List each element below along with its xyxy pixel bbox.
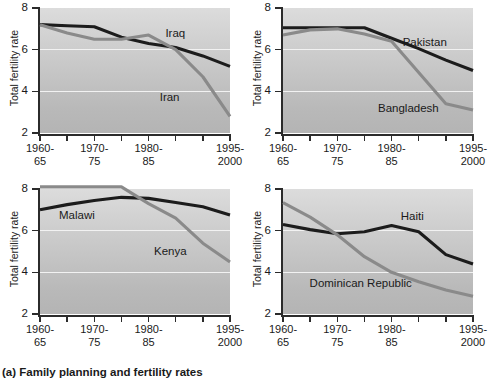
- series-line-iran: [40, 25, 230, 117]
- x-tick-mark: [391, 135, 393, 141]
- x-tick-label-line1: 1980-: [123, 142, 175, 155]
- x-tick-mark: [309, 135, 311, 141]
- x-tick-mark: [202, 316, 204, 322]
- y-tick-mark: [275, 272, 282, 274]
- x-tick-mark: [175, 135, 177, 141]
- x-tick-label-line1: 1980-: [366, 323, 418, 336]
- series-label-dominican-republic: Dominican Republic: [310, 277, 412, 289]
- y-tick-label: 4: [249, 85, 271, 97]
- x-tick-mark: [445, 135, 447, 141]
- y-tick-mark: [275, 132, 282, 134]
- chart-panel-iraq-iran: Total fertility rate8642IraqIran1960-651…: [0, 0, 242, 181]
- x-tick-mark: [282, 135, 284, 141]
- x-tick-label-line1: 1970-: [68, 142, 120, 155]
- x-tick-label-line1: 1970-: [311, 142, 363, 155]
- panel-grid: Total fertility rate8642IraqIran1960-651…: [0, 0, 485, 362]
- y-tick-label: 8: [249, 2, 271, 14]
- y-tick-mark: [275, 313, 282, 315]
- x-tick-label-line2: 75: [68, 155, 120, 168]
- y-axis-title: Total fertility rate: [251, 8, 263, 128]
- plot-area: MalawiKenya: [40, 189, 230, 314]
- y-tick-label: 8: [249, 183, 271, 195]
- x-tick-mark: [309, 316, 311, 322]
- x-tick-mark: [282, 316, 284, 322]
- x-tick-label-line2: 75: [311, 155, 363, 168]
- y-tick-label: 4: [249, 266, 271, 278]
- y-tick-label: 2: [249, 127, 271, 139]
- plot-area: PakistanBangladesh: [283, 8, 473, 133]
- x-tick-label: 1980-85: [123, 142, 175, 167]
- x-tick-label-line2: 65: [14, 336, 66, 349]
- x-tick-label-line2: 85: [366, 155, 418, 168]
- x-tick-label-line2: 85: [123, 155, 175, 168]
- x-tick-mark: [121, 316, 123, 322]
- x-tick-mark: [121, 135, 123, 141]
- x-tick-mark: [229, 135, 231, 141]
- x-tick-label-line1: 1960-: [14, 142, 66, 155]
- series-lines: [40, 189, 230, 314]
- y-tick-mark: [32, 313, 39, 315]
- x-tick-label-line2: 65: [14, 155, 66, 168]
- x-tick-mark: [445, 316, 447, 322]
- chart-panel-malawi-kenya: Total fertility rate8642MalawiKenya1960-…: [0, 181, 242, 362]
- series-line-pakistan: [283, 28, 473, 71]
- x-tick-label: 1970-75: [68, 142, 120, 167]
- y-tick-mark: [32, 91, 39, 93]
- y-tick-label: 2: [249, 308, 271, 320]
- y-tick-mark: [275, 230, 282, 232]
- x-tick-label-line2: 2000: [447, 336, 492, 349]
- y-tick-label: 6: [6, 225, 28, 237]
- x-tick-mark: [148, 135, 150, 141]
- figure-caption: (a) Family planning and fertility rates: [2, 366, 203, 378]
- y-tick-label: 6: [249, 44, 271, 56]
- plot-area: HaitiDominican Republic: [283, 189, 473, 314]
- x-tick-label: 1970-75: [311, 323, 363, 348]
- y-tick-label: 4: [6, 85, 28, 97]
- x-tick-mark: [148, 316, 150, 322]
- series-label-iran: Iran: [160, 91, 180, 103]
- series-lines: [283, 8, 473, 133]
- x-tick-label-line1: 1970-: [68, 323, 120, 336]
- series-lines: [283, 189, 473, 314]
- y-tick-mark: [275, 91, 282, 93]
- x-tick-label-line1: 1995-: [447, 323, 492, 336]
- y-tick-mark: [32, 7, 39, 9]
- y-tick-mark: [275, 188, 282, 190]
- x-tick-label: 1960-65: [14, 323, 66, 348]
- y-tick-mark: [32, 188, 39, 190]
- x-tick-label: 1960-65: [257, 323, 309, 348]
- x-tick-label-line1: 1960-: [14, 323, 66, 336]
- x-tick-mark: [418, 316, 420, 322]
- x-tick-label-line1: 1980-: [123, 323, 175, 336]
- x-tick-label-line1: 1980-: [366, 142, 418, 155]
- x-tick-mark: [94, 316, 96, 322]
- x-tick-mark: [364, 316, 366, 322]
- x-tick-mark: [175, 316, 177, 322]
- x-tick-mark: [391, 316, 393, 322]
- y-tick-mark: [275, 49, 282, 51]
- x-tick-mark: [66, 316, 68, 322]
- x-tick-label-line1: 1960-: [257, 142, 309, 155]
- x-tick-mark: [66, 135, 68, 141]
- x-tick-label: 1960-65: [257, 142, 309, 167]
- x-tick-mark: [337, 316, 339, 322]
- x-tick-mark: [202, 135, 204, 141]
- x-tick-label: 1995-2000: [447, 142, 492, 167]
- x-tick-label-line2: 65: [257, 155, 309, 168]
- x-tick-mark: [39, 316, 41, 322]
- x-tick-label-line1: 1970-: [311, 323, 363, 336]
- x-tick-label-line2: 2000: [447, 155, 492, 168]
- series-label-kenya: Kenya: [154, 245, 187, 257]
- y-tick-label: 2: [6, 127, 28, 139]
- chart-panel-haiti-dominican-republic: Total fertility rate8642HaitiDominican R…: [243, 181, 485, 362]
- series-label-malawi: Malawi: [59, 209, 95, 221]
- x-tick-label: 1980-85: [123, 323, 175, 348]
- x-tick-label-line1: 1995-: [447, 142, 492, 155]
- x-tick-label: 1970-75: [68, 323, 120, 348]
- series-label-haiti: Haiti: [401, 210, 424, 222]
- series-line-haiti: [283, 224, 473, 264]
- y-tick-mark: [32, 132, 39, 134]
- y-tick-mark: [32, 272, 39, 274]
- y-tick-mark: [32, 49, 39, 51]
- x-tick-label-line2: 65: [257, 336, 309, 349]
